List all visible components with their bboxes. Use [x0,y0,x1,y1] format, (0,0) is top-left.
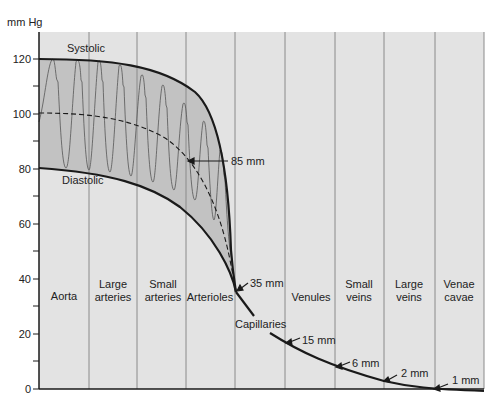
category-aorta: Aorta [51,290,78,302]
y-tick-80: 80 [19,163,31,175]
category-venae-cavae-1: Venae [443,278,474,290]
y-axis-label: mm Hg [7,16,42,28]
blood-pressure-chart: mm Hg 120 100 80 60 40 20 0 Systolic Dia… [0,0,503,411]
y-tick-60: 60 [19,218,31,230]
diastolic-label: Diastolic [62,174,104,186]
category-arterioles: Arterioles [187,291,234,303]
category-small-arteries-1: Small [149,278,177,290]
y-ticks [33,59,39,389]
annotation-6mm: 6 mm [352,357,380,369]
y-tick-40: 40 [19,273,31,285]
annotation-15mm: 15 mm [302,334,336,346]
annotation-2mm: 2 mm [401,367,429,379]
category-venae-cavae-2: cavae [444,291,473,303]
category-small-veins-1: Small [345,278,373,290]
capillaries-label: Capillaries [235,318,287,330]
category-large-veins-1: Large [395,278,423,290]
category-large-arteries-1: Large [99,278,127,290]
annotation-1mm: 1 mm [452,374,480,386]
systolic-label: Systolic [67,42,105,54]
category-small-veins-2: veins [346,291,372,303]
category-venules: Venules [291,291,331,303]
y-tick-20: 20 [19,328,31,340]
annotation-85mm: 85 mm [231,155,265,167]
category-small-arteries-2: arteries [145,291,182,303]
annotation-35mm: 35 mm [250,277,284,289]
y-tick-0: 0 [25,383,31,395]
category-large-arteries-2: arteries [95,291,132,303]
y-tick-120: 120 [13,53,31,65]
category-large-veins-2: veins [396,291,422,303]
y-tick-100: 100 [13,108,31,120]
